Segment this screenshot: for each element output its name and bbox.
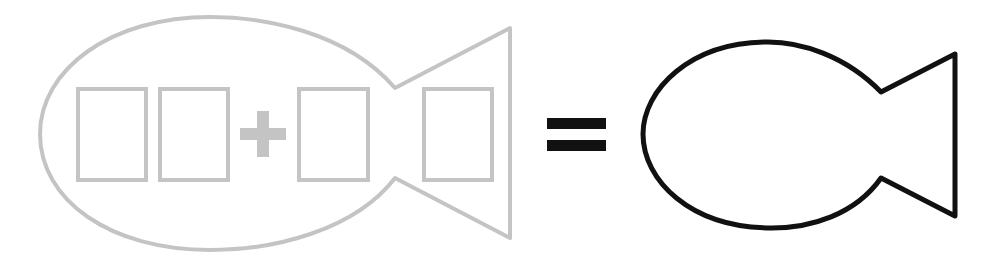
plus-icon (240, 111, 286, 157)
fish-equation-canvas (0, 0, 998, 265)
black-fish-outline (643, 42, 955, 228)
blank-box-4[interactable] (424, 89, 492, 180)
blank-box-3[interactable] (299, 89, 368, 180)
blank-box-1[interactable] (78, 89, 146, 180)
equals-icon (547, 118, 606, 151)
blank-box-2[interactable] (160, 89, 228, 180)
